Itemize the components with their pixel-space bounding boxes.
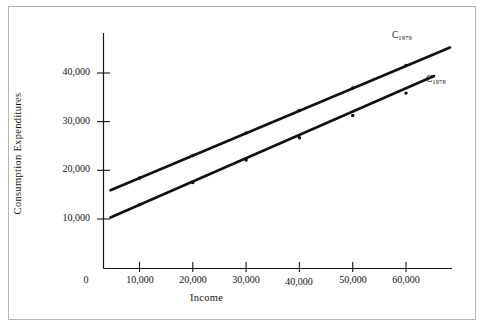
x-axis-title: Income <box>190 292 223 303</box>
label-c-1979: C1979 <box>392 30 412 40</box>
x-tick-label-20000: 20,000 <box>165 274 221 285</box>
y-tick-label-40000: 40,000 <box>40 66 90 77</box>
data-point <box>404 91 407 94</box>
x-tick-label-30000: 30,000 <box>218 274 274 285</box>
y-tick-label-30000: 30,000 <box>40 115 90 126</box>
data-point <box>191 154 194 157</box>
data-point <box>298 136 301 139</box>
data-point <box>244 131 247 134</box>
data-point <box>191 181 194 184</box>
y-tick-label-20000: 20,000 <box>40 163 90 174</box>
series-line-c-1979 <box>111 48 451 191</box>
x-tick-label-60000: 60,000 <box>378 274 434 285</box>
y-tick-label-10000: 10,000 <box>40 212 90 223</box>
data-point <box>351 86 354 89</box>
x-tick-label-50000: 50,000 <box>325 274 381 285</box>
origin-tick-label: 0 <box>76 274 96 285</box>
x-tick-label-40000: 40,000 <box>271 276 327 287</box>
x-tick-label-10000: 10,000 <box>112 274 168 285</box>
y-axis-title: Consumption Expenditures <box>12 69 23 239</box>
data-point <box>244 158 247 161</box>
label-c-1978: C1978 <box>426 74 446 84</box>
series-line-c-1978 <box>111 76 435 218</box>
label-c-1979-subscript: 1979 <box>398 34 411 41</box>
data-point <box>138 176 141 179</box>
label-c-1978-subscript: 1978 <box>432 78 445 85</box>
data-point <box>138 203 141 206</box>
data-point <box>404 64 407 67</box>
data-point <box>298 109 301 112</box>
data-point <box>351 114 354 117</box>
